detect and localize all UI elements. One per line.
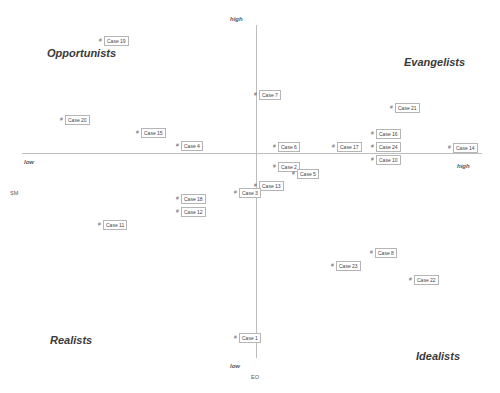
- y-axis-title: EO: [251, 374, 259, 380]
- data-point: #Case 18: [176, 194, 206, 203]
- data-point: #Case 19: [99, 36, 129, 45]
- data-point: #Case 21: [390, 103, 420, 112]
- point-label: Case 22: [414, 275, 439, 285]
- data-point: #Case 6: [273, 142, 300, 151]
- point-label: Case 16: [376, 129, 401, 139]
- data-point: #Case 7: [254, 90, 281, 99]
- point-label: Case 3: [239, 188, 261, 198]
- point-label: Case 4: [181, 141, 203, 151]
- x-axis-title: SM: [10, 190, 18, 196]
- data-point: #Case 20: [60, 115, 90, 124]
- point-label: Case 23: [336, 261, 361, 271]
- data-point: #Case 16: [371, 129, 401, 138]
- data-point: #Case 14: [448, 143, 478, 152]
- data-point: #Case 22: [409, 275, 439, 284]
- data-point: #Case 24: [371, 142, 401, 151]
- data-point: #Case 10: [371, 155, 401, 164]
- point-label: Case 24: [376, 142, 401, 152]
- point-label: Case 5: [297, 169, 319, 179]
- quadrant-label-bottom-right: Idealists: [416, 350, 460, 362]
- y-axis-low-label: low: [230, 363, 240, 369]
- point-label: Case 14: [453, 143, 478, 153]
- point-label: Case 21: [395, 103, 420, 113]
- point-label: Case 11: [103, 220, 127, 230]
- data-point: #Case 1: [234, 333, 261, 342]
- point-label: Case 1: [239, 333, 261, 343]
- point-label: Case 19: [104, 36, 129, 46]
- point-label: Case 10: [376, 155, 401, 165]
- quadrant-label-bottom-left: Realists: [50, 334, 92, 346]
- point-label: Case 7: [259, 90, 281, 100]
- data-point: #Case 4: [176, 141, 203, 150]
- data-point: #Case 11: [98, 220, 127, 229]
- data-point: #Case 3: [234, 188, 261, 197]
- data-point: #Case 17: [332, 142, 362, 151]
- y-axis-high-label: high: [230, 16, 243, 22]
- point-label: Case 8: [375, 248, 397, 258]
- point-label: Case 20: [65, 115, 90, 125]
- data-point: #Case 5: [292, 169, 319, 178]
- data-point: #Case 23: [331, 261, 361, 270]
- point-label: Case 17: [337, 142, 362, 152]
- quadrant-label-top-right: Evangelists: [404, 56, 465, 68]
- data-point: #Case 15: [136, 128, 166, 137]
- data-point: #Case 12: [176, 207, 206, 216]
- point-label: Case 13: [259, 181, 284, 191]
- x-axis-high-label: high: [457, 163, 470, 169]
- point-label: Case 15: [141, 128, 166, 138]
- quadrant-label-top-left: Opportunists: [47, 47, 116, 59]
- point-label: Case 18: [181, 194, 206, 204]
- x-axis-low-label: low: [24, 159, 34, 165]
- data-point: #Case 8: [370, 248, 397, 257]
- point-label: Case 12: [181, 207, 206, 217]
- point-label: Case 6: [278, 142, 300, 152]
- x-axis-line: [22, 153, 482, 154]
